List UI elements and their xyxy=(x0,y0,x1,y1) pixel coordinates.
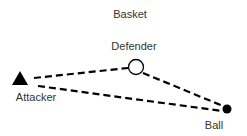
defender-circle-icon xyxy=(129,60,144,75)
defender-label: Defender xyxy=(111,40,157,52)
attacker-label: Attacker xyxy=(16,91,57,103)
ball-label: Ball xyxy=(205,119,223,131)
attacker-triangle-icon xyxy=(12,71,28,85)
ball-dot-icon xyxy=(223,105,232,114)
basketball-positioning-diagram: Basket Defender Attacker Ball xyxy=(0,0,247,136)
attacker-defender-line xyxy=(34,68,128,78)
attacker-ball-line xyxy=(38,86,222,111)
defender-ball-line xyxy=(143,73,223,106)
basket-label: Basket xyxy=(113,8,147,20)
